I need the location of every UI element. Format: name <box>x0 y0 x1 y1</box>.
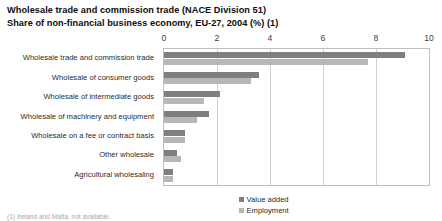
bar-chart: 0246810 Wholesale trade and commission t… <box>0 0 442 221</box>
x-tick-label-6: 6 <box>321 33 326 43</box>
legend-item[interactable]: Employment <box>239 205 359 215</box>
x-tick-label-2: 2 <box>215 33 220 43</box>
x-tick-label-8: 8 <box>374 33 379 43</box>
legend-label: Employment <box>247 206 289 215</box>
bars-layer <box>164 49 429 185</box>
bar-value-added <box>164 150 177 156</box>
y-axis-category-labels: Wholesale trade and commission tradeWhol… <box>0 48 159 186</box>
category-label: Wholesale of consumer goods <box>52 73 154 82</box>
bar-value-added <box>164 72 259 78</box>
chart-legend: Value addedEmployment <box>239 194 359 216</box>
chart-footnote: (1) Ireland and Malta, not available. <box>7 213 110 221</box>
x-tick-label-10: 10 <box>424 33 434 43</box>
legend-label: Value added <box>247 195 289 204</box>
bar-employment <box>164 78 251 84</box>
legend-swatch-icon <box>239 197 244 202</box>
category-label: Other wholesale <box>99 150 154 159</box>
bar-value-added <box>164 130 185 136</box>
bar-employment <box>164 156 181 162</box>
bar-employment <box>164 98 204 104</box>
category-label: Wholesale on a fee or contract basis <box>31 131 154 140</box>
category-label: Wholesale of intermediate goods <box>43 92 154 101</box>
legend-swatch-icon <box>239 208 244 213</box>
legend-item[interactable]: Value added <box>239 194 359 204</box>
x-tick-label-0: 0 <box>162 33 167 43</box>
bar-employment <box>164 59 368 65</box>
x-axis-tick-labels: 0246810 <box>163 33 430 46</box>
category-label: Wholesale of machinery and equipment <box>21 112 154 121</box>
bar-value-added <box>164 91 220 97</box>
bar-employment <box>164 137 185 143</box>
category-label: Agricultural wholesaling <box>74 170 154 179</box>
category-label: Wholesale trade and commission trade <box>23 53 154 62</box>
bar-employment <box>164 176 173 182</box>
bar-value-added <box>164 169 173 175</box>
bar-value-added <box>164 111 209 117</box>
bar-value-added <box>164 52 405 58</box>
bar-employment <box>164 117 197 123</box>
x-tick-label-4: 4 <box>268 33 273 43</box>
